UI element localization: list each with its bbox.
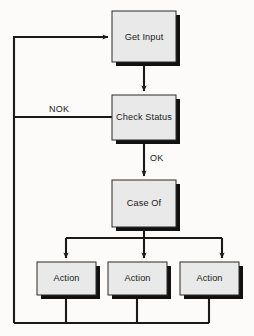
node-action-1-label: Action [53, 273, 79, 283]
node-case-of[interactable]: Case Of [112, 180, 180, 231]
node-get-input[interactable]: Get Input [112, 11, 180, 66]
flowchart-canvas: Get Input Check Status Case Of Action Ac… [0, 0, 254, 336]
node-action-2[interactable]: Action [108, 262, 171, 299]
node-check-status-label: Check Status [116, 112, 172, 122]
flowchart-svg: Get Input Check Status Case Of Action Ac… [0, 0, 254, 336]
node-action-3[interactable]: Action [180, 262, 243, 299]
edge-label-ok: OK [150, 153, 163, 163]
node-action-2-label: Action [124, 273, 150, 283]
node-action-3-label: Action [196, 273, 222, 283]
edge-label-nok: NOK [49, 104, 69, 114]
node-check-status[interactable]: Check Status [112, 95, 180, 144]
node-case-of-label: Case Of [127, 198, 162, 208]
node-action-1[interactable]: Action [37, 262, 100, 299]
node-get-input-label: Get Input [125, 32, 164, 42]
